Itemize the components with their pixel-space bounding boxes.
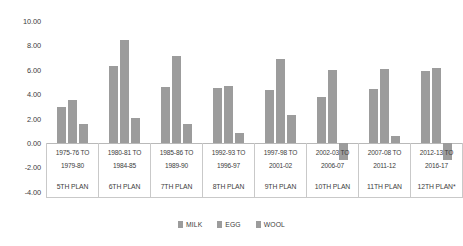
bar-milk	[213, 88, 222, 143]
x-axis-period-label: 2011-12	[359, 160, 410, 173]
bar-wool	[391, 136, 400, 143]
y-axis-tick-label: -4.00	[25, 187, 41, 196]
x-axis-plan-label: 11TH PLAN	[359, 181, 410, 194]
bar-wool	[131, 118, 140, 143]
y-axis-tick-label: 8.00	[27, 41, 41, 50]
x-axis-category-cell: 2012-13 TO2016-1712TH PLAN*	[411, 143, 462, 197]
bar-milk	[369, 89, 378, 143]
y-axis-tick-label: 0.00	[27, 139, 41, 148]
legend-swatch-icon	[217, 221, 222, 228]
x-axis-category-cell: 1980-81 TO1984-856TH PLAN	[99, 143, 151, 197]
legend-label: WOOL	[264, 221, 285, 228]
legend-swatch-icon	[178, 221, 183, 228]
legend-item[interactable]: MILK	[178, 221, 202, 228]
bar-egg	[68, 100, 77, 143]
x-axis-period-label: 1996-97	[203, 160, 254, 173]
bar-group	[255, 0, 307, 246]
bar-group	[359, 0, 411, 246]
bar-group	[307, 0, 359, 246]
bar-milk	[317, 97, 326, 143]
bar-egg	[224, 86, 233, 143]
x-axis-period-label: 2012-13 TO	[411, 147, 462, 160]
x-axis-plan-label: 6TH PLAN	[99, 181, 150, 194]
y-axis: 10.008.006.004.002.000.00-2.00-4.00	[0, 0, 46, 246]
bar-group	[46, 0, 98, 246]
x-axis-plan-label: 7TH PLAN	[151, 181, 202, 194]
bar-wool	[79, 124, 88, 143]
x-axis-label-table: 1975-76 TO1979-805TH PLAN1980-81 TO1984-…	[46, 143, 463, 198]
bar-group	[411, 0, 463, 246]
bar-egg	[432, 68, 441, 143]
x-axis-plan-label: 5TH PLAN	[47, 181, 98, 194]
bar-wool	[235, 133, 244, 143]
y-axis-tick-label: 10.00	[23, 17, 41, 26]
x-axis-period-label: 1985-86 TO	[151, 147, 202, 160]
plot-area	[46, 0, 463, 246]
bar-wool	[287, 115, 296, 143]
x-axis-period-label: 1975-76 TO	[47, 147, 98, 160]
bar-egg	[380, 69, 389, 143]
bar-group	[98, 0, 150, 246]
bar-group	[150, 0, 202, 246]
x-axis-period-label: 2006-07	[307, 160, 358, 173]
bar-milk	[161, 87, 170, 143]
y-axis-tick-label: -2.00	[25, 163, 41, 172]
bar-egg	[328, 70, 337, 143]
x-axis-period-label: 2016-17	[411, 160, 462, 173]
legend-label: MILK	[186, 221, 202, 228]
x-axis-category-cell: 1997-98 TO2001-029TH PLAN	[255, 143, 307, 197]
chart-legend: MILKEGGWOOL	[0, 221, 463, 228]
x-axis-category-cell: 1975-76 TO1979-805TH PLAN	[47, 143, 99, 197]
y-axis-tick-label: 4.00	[27, 90, 41, 99]
bar-group	[202, 0, 254, 246]
legend-item[interactable]: EGG	[217, 221, 240, 228]
legend-item[interactable]: WOOL	[256, 221, 285, 228]
legend-label: EGG	[225, 221, 240, 228]
x-axis-category-cell: 2002-03 TO2006-0710TH PLAN	[307, 143, 359, 197]
x-axis-period-label: 1997-98 TO	[255, 147, 306, 160]
x-axis-period-label: 1989-90	[151, 160, 202, 173]
x-axis-category-cell: 2007-08 TO2011-1211TH PLAN	[359, 143, 411, 197]
x-axis-plan-label: 12TH PLAN*	[411, 181, 462, 194]
bar-egg	[120, 40, 129, 143]
x-axis-plan-label: 9TH PLAN	[255, 181, 306, 194]
bar-milk	[421, 71, 430, 143]
bar-egg	[172, 56, 181, 143]
bar-milk	[265, 90, 274, 143]
bar-milk	[57, 107, 66, 143]
bar-egg	[276, 59, 285, 143]
x-axis-plan-label: 10TH PLAN	[307, 181, 358, 194]
bar-wool	[183, 124, 192, 143]
x-axis-period-label: 2001-02	[255, 160, 306, 173]
x-axis-period-label: 2007-08 TO	[359, 147, 410, 160]
x-axis-period-label: 1992-93 TO	[203, 147, 254, 160]
legend-swatch-icon	[256, 221, 261, 228]
x-axis-plan-label: 8TH PLAN	[203, 181, 254, 194]
grouped-bar-chart: 10.008.006.004.002.000.00-2.00-4.00 1975…	[0, 0, 463, 246]
x-axis-period-label: 1979-80	[47, 160, 98, 173]
bar-milk	[109, 66, 118, 143]
x-axis-period-label: 2002-03 TO	[307, 147, 358, 160]
y-axis-tick-label: 2.00	[27, 114, 41, 123]
x-axis-category-cell: 1992-93 TO1996-978TH PLAN	[203, 143, 255, 197]
x-axis-period-label: 1980-81 TO	[99, 147, 150, 160]
x-axis-category-cell: 1985-86 TO1989-907TH PLAN	[151, 143, 203, 197]
y-axis-tick-label: 6.00	[27, 65, 41, 74]
x-axis-period-label: 1984-85	[99, 160, 150, 173]
